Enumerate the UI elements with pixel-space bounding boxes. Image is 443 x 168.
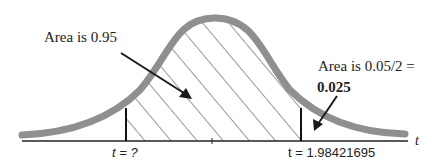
axis-label: t: [415, 133, 419, 149]
right-critical-label: t = 1.98421695: [288, 145, 375, 160]
center-area-label: Area is 0.95: [44, 29, 117, 46]
diagram-graphic: [0, 0, 443, 168]
tail-area-value: 0.025: [317, 79, 351, 96]
tail-area-label: Area is 0.05/2 =: [318, 58, 415, 75]
t-distribution-diagram: Area is 0.95 Area is 0.05/2 = 0.025 t = …: [0, 0, 443, 168]
left-critical-label: t = ?: [112, 145, 138, 160]
